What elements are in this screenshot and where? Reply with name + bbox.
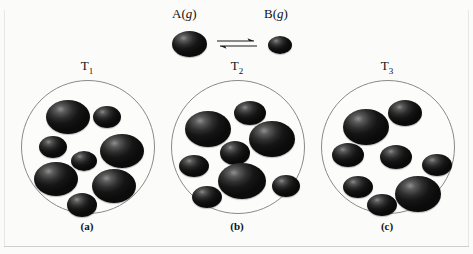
temperature-label-t2-text: T (231, 58, 239, 73)
molecule-a-b-6 (218, 163, 266, 199)
molecule-a-c-7 (395, 176, 441, 212)
molecule-a-a-1 (46, 100, 90, 134)
temperature-label-t3-subscript: 3 (389, 66, 394, 76)
panel-label-b: (b) (162, 220, 312, 232)
molecule-b-a-2 (93, 106, 121, 128)
molecule-a-a-7 (92, 169, 136, 203)
container-group-c: T3 (c) (312, 58, 462, 248)
panel-label-c: (c) (312, 220, 462, 232)
molecule-a-a-6 (34, 162, 78, 196)
temperature-label-t2: T2 (162, 58, 312, 76)
temperature-label-t1-text: T (81, 58, 89, 73)
molecule-a-c-2 (343, 109, 389, 145)
key-sphere-product-b (268, 36, 292, 54)
panel-label-a: (a) (12, 220, 162, 232)
reactant-label: A(g) (172, 6, 197, 22)
molecule-a-a-4 (100, 134, 144, 168)
molecule-b-a-5 (71, 151, 97, 171)
vessel-b (171, 80, 305, 214)
temperature-label-t3: T3 (312, 58, 462, 76)
molecule-b-a-3 (39, 136, 67, 158)
temperature-label-t3-text: T (381, 58, 389, 73)
molecule-a-b-2 (185, 111, 231, 147)
molecule-b-b-4 (220, 141, 250, 165)
molecule-b-c-4 (380, 145, 412, 169)
reactant-label-text: A( (172, 6, 186, 21)
molecule-b-c-5 (422, 154, 452, 176)
container-group-b: T2 (b) (162, 58, 312, 248)
molecule-b-c-6 (343, 176, 373, 198)
reaction-key-row: A(g) B(g) (0, 0, 473, 62)
molecule-b-c-1 (388, 100, 422, 126)
temperature-label-t2-subscript: 2 (239, 66, 244, 76)
vessel-c (321, 80, 455, 214)
key-sphere-reactant-a (172, 31, 207, 57)
product-close-paren: ) (284, 6, 288, 21)
molecule-a-b-3 (249, 121, 295, 157)
molecule-b-b-5 (179, 155, 209, 177)
temperature-label-t1: T1 (12, 58, 162, 76)
vessel-a (21, 80, 155, 214)
molecule-b-b-1 (234, 101, 266, 125)
temperature-label-t1-subscript: 1 (89, 66, 94, 76)
product-label-text: B( (264, 6, 277, 21)
molecule-b-c-3 (332, 143, 364, 167)
molecule-b-b-7 (272, 175, 300, 197)
equilibrium-figure: A(g) B(g) T1 (a) T2 (b) T3 (c) (0, 0, 473, 254)
reactant-close-paren: ) (192, 6, 196, 21)
molecule-b-c-8 (367, 194, 397, 216)
product-label: B(g) (264, 6, 288, 22)
container-group-a: T1 (a) (12, 58, 162, 248)
equilibrium-double-harpoon-icon (216, 35, 258, 53)
molecule-b-b-8 (192, 186, 222, 208)
molecule-a-a-8 (67, 193, 97, 217)
